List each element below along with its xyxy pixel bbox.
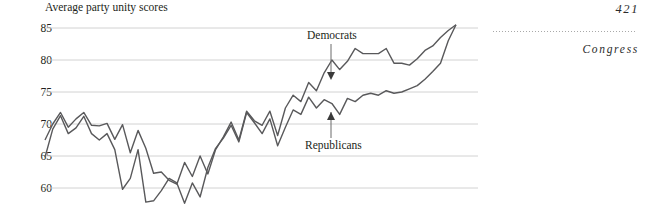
running-head-title: Congress xyxy=(582,43,639,55)
arrow-down-icon xyxy=(327,72,335,80)
line-chart-figure: Average party unity scores 85 80 75 70 6… xyxy=(0,0,489,210)
page-number: 421 xyxy=(615,2,639,17)
series-line-democrats xyxy=(45,25,456,184)
running-head: 421 Congress xyxy=(489,0,653,70)
plot-area xyxy=(0,0,489,210)
header-dotted-rule xyxy=(493,31,637,32)
series-lines xyxy=(45,25,456,204)
series-line-republicans xyxy=(45,25,456,204)
gridlines xyxy=(45,28,478,188)
arrow-up-icon xyxy=(327,112,335,120)
